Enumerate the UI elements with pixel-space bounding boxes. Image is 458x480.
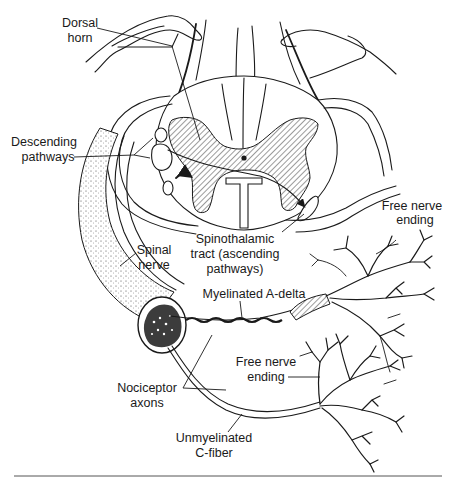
label-spinal-nerve-line1: Spinal: [137, 243, 172, 257]
label-dorsal-horn: Dorsal horn: [62, 16, 98, 45]
label-a-delta: Myelinated A-delta: [203, 287, 306, 301]
label-myelinated-a-delta: Myelinated A-delta: [203, 287, 306, 301]
label-spinothalamic-line1: Spinothalamic: [196, 232, 275, 246]
dorsal-root-left: [86, 16, 202, 72]
label-unmyelinated-c-fiber: Unmyelinated C-fiber: [176, 431, 252, 460]
diagram-canvas: Dorsal horn Descending pathways Spinotha…: [0, 0, 458, 480]
label-free-nerve-top-line1: Free nerve: [382, 199, 442, 213]
label-spinal-nerve: Spinal nerve: [137, 243, 172, 272]
label-spinothalamic-line3: pathways): [207, 262, 264, 276]
label-nociceptor-line1: Nociceptor: [117, 381, 177, 395]
label-free-nerve-ending-bottom: Free nerve ending: [236, 355, 296, 384]
label-descending-line1: Descending: [11, 135, 77, 149]
label-c-fiber-line1: Unmyelinated: [176, 431, 252, 445]
label-nociceptor-line2: axons: [130, 396, 163, 410]
label-free-nerve-ending-top: Free nerve ending: [382, 199, 442, 227]
label-free-nerve-bottom-line2: ending: [247, 370, 285, 384]
central-canal: [241, 155, 246, 160]
label-nociceptor-axons: Nociceptor axons: [117, 381, 177, 410]
dorsal-root-right: [281, 30, 396, 78]
label-spinothalamic-tract: Spinothalamic tract (ascending pathways): [191, 232, 280, 276]
label-free-nerve-top-line2: ending: [396, 213, 434, 227]
nerve-cross-section: [138, 297, 186, 353]
label-spinal-nerve-line2: nerve: [138, 258, 169, 272]
label-c-fiber-line2: C-fiber: [195, 446, 233, 460]
nociception-diagram: Dorsal horn Descending pathways Spinotha…: [0, 0, 458, 480]
label-dorsal-horn-line2: horn: [67, 31, 92, 45]
label-descending-line2: pathways: [22, 150, 75, 164]
label-dorsal-horn-line1: Dorsal: [62, 16, 98, 30]
label-descending-pathways: Descending pathways: [11, 135, 77, 164]
label-free-nerve-bottom-line1: Free nerve: [236, 355, 296, 369]
label-spinothalamic-line2: tract (ascending: [191, 247, 280, 261]
